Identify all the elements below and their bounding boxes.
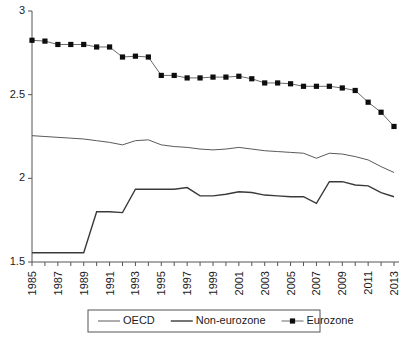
data-point-marker — [210, 75, 215, 80]
y-tick-label: 3 — [19, 4, 25, 16]
x-tick-label: 1989 — [78, 271, 90, 295]
legend: OECDNon-eurozoneEurozone — [88, 310, 354, 332]
data-point-marker — [29, 38, 34, 43]
data-point-marker — [159, 73, 164, 78]
data-point-marker — [223, 75, 228, 80]
legend-label: OECD — [123, 314, 155, 326]
data-point-marker — [288, 81, 293, 86]
series-oecd — [32, 136, 394, 173]
data-point-marker — [301, 84, 306, 89]
y-tick-label: 2 — [19, 171, 25, 183]
data-point-marker — [55, 42, 60, 47]
data-point-marker — [353, 88, 358, 93]
data-point-marker — [262, 80, 267, 85]
x-tick-group: 1985198719891991199319951997199920012003… — [26, 262, 400, 295]
data-point-marker — [81, 42, 86, 47]
x-tick-label: 1995 — [155, 271, 167, 295]
data-point-marker — [366, 100, 371, 105]
x-tick-label: 2011 — [362, 271, 374, 295]
data-point-marker — [120, 54, 125, 59]
data-point-marker — [42, 39, 47, 44]
series-line — [32, 182, 394, 253]
axes — [32, 11, 399, 262]
data-point-marker — [68, 42, 73, 47]
x-tick-label: 1987 — [52, 271, 64, 295]
legend-label: Non-eurozone — [196, 314, 266, 326]
data-point-marker — [172, 73, 177, 78]
data-point-marker — [197, 75, 202, 80]
line-chart: 1.522.5319851987198919911993199519971999… — [0, 0, 407, 337]
x-tick-label: 1999 — [207, 271, 219, 295]
series-line — [32, 40, 394, 126]
data-point-marker — [94, 44, 99, 49]
data-point-marker — [236, 74, 241, 79]
x-tick-label: 1993 — [129, 271, 141, 295]
x-tick-label: 2009 — [336, 271, 348, 295]
chart-canvas: 1.522.5319851987198919911993199519971999… — [0, 0, 407, 337]
data-point-marker — [107, 44, 112, 49]
series-line — [32, 136, 394, 173]
x-tick-label: 2003 — [259, 271, 271, 295]
x-tick-label: 1991 — [104, 271, 116, 295]
data-point-marker — [340, 85, 345, 90]
x-tick-label: 2007 — [310, 271, 322, 295]
legend-marker-square — [290, 318, 295, 323]
x-tick-label: 2013 — [388, 271, 400, 295]
legend-label: Eurozone — [307, 314, 354, 326]
data-point-marker — [185, 75, 190, 80]
data-point-marker — [327, 84, 332, 89]
data-point-marker — [391, 124, 396, 129]
y-tick-label: 2.5 — [10, 88, 25, 100]
data-point-marker — [378, 110, 383, 115]
data-point-marker — [275, 80, 280, 85]
y-tick-group: 1.522.53 — [10, 4, 32, 267]
data-point-marker — [146, 54, 151, 59]
data-point-marker — [314, 84, 319, 89]
series-eurozone — [29, 38, 396, 129]
series-non-eurozone — [32, 182, 394, 253]
y-tick-label: 1.5 — [10, 255, 25, 267]
x-tick-label: 2005 — [285, 271, 297, 295]
data-point-marker — [249, 76, 254, 81]
data-point-marker — [133, 54, 138, 59]
x-tick-label: 1985 — [26, 271, 38, 295]
x-tick-label: 2001 — [233, 271, 245, 295]
x-tick-label: 1997 — [181, 271, 193, 295]
